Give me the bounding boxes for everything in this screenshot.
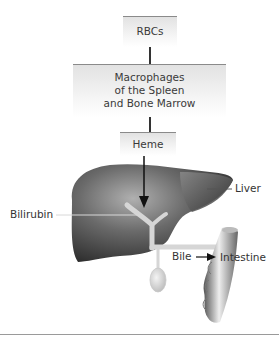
bile-label: Bile	[172, 250, 192, 262]
bottom-divider	[0, 334, 279, 335]
gallbladder-shape	[150, 268, 166, 292]
intestine-label: Intestine	[220, 251, 266, 263]
intestine-shape	[203, 227, 238, 323]
liver-label: Liver	[235, 182, 261, 194]
bilirubin-label: Bilirubin	[10, 208, 53, 220]
liver-intestine-illustration	[0, 0, 279, 340]
